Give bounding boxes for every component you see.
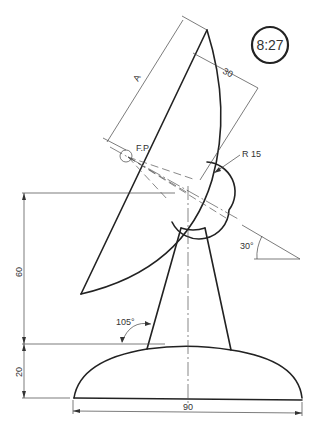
dish-reflector xyxy=(81,30,221,294)
dimension-depth: 30 xyxy=(193,53,258,180)
dimension-base-height-label: 20 xyxy=(14,367,24,377)
focal-point-label: F.P. xyxy=(136,143,150,153)
figure-number-badge: 8:27 xyxy=(252,27,288,63)
dimension-height-label: 60 xyxy=(14,267,24,277)
tilt-angle-label: 30° xyxy=(240,241,254,251)
stand-angle-annotation: 105° xyxy=(116,317,151,343)
dimension-base-height: 20 xyxy=(14,344,26,398)
dimension-height: 60 xyxy=(14,193,26,344)
dimension-a: A xyxy=(103,16,207,150)
figure-number: 8:27 xyxy=(256,37,283,53)
focal-rays xyxy=(110,147,240,220)
radius-leader: R 15 xyxy=(214,149,261,173)
tilt-angle-reference: 30° xyxy=(240,225,300,259)
dimension-base-width: 90 xyxy=(73,400,302,416)
dimension-a-label: A xyxy=(131,73,143,83)
radius-label: R 15 xyxy=(242,149,261,159)
dimension-base-width-label: 90 xyxy=(183,402,193,412)
stand-cone xyxy=(147,228,231,350)
technical-drawing: 8:27 F.P. A xyxy=(0,0,317,432)
stand-angle-label: 105° xyxy=(116,317,135,327)
dimension-depth-label: 30 xyxy=(221,66,235,80)
